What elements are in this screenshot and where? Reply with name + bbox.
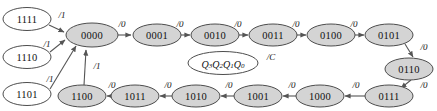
- state-node-1000[interactable]: 1000: [296, 85, 344, 107]
- state-node-1100[interactable]: 1100: [58, 85, 106, 107]
- edge-label-0100-to-0101: /0: [349, 19, 358, 29]
- legend-node: Q3Q2Q1Q0 /C: [188, 52, 276, 75]
- state-label-1010: 1010: [185, 91, 207, 102]
- state-label-0111: 0111: [378, 91, 399, 102]
- edge-label-1101-to-0000: /1: [45, 74, 53, 84]
- state-node-1101[interactable]: 1101: [3, 83, 51, 106]
- diagram-canvas: 1111 1110 1101 0000 0001 0010: [0, 0, 437, 111]
- state-label-1000: 1000: [309, 91, 331, 102]
- state-node-0011[interactable]: 0011: [249, 24, 297, 46]
- state-node-0000[interactable]: 0000: [66, 23, 118, 47]
- edge-label-0000-to-0001: /0: [117, 19, 126, 29]
- edge-label-1010-to-1011: /0: [163, 80, 172, 90]
- edge-label-1011-to-1100: /0: [107, 80, 116, 90]
- edge-label-0010-to-0011: /0: [233, 19, 242, 29]
- state-label-1110: 1110: [16, 52, 37, 63]
- edge-label-0110-to-0111: /0: [419, 80, 428, 90]
- edge-0101-to-0110: [405, 44, 413, 57]
- edge-label-0011-to-0100: /0: [291, 19, 300, 29]
- state-label-0100: 0100: [320, 30, 342, 41]
- state-node-1111[interactable]: 1111: [3, 8, 51, 31]
- legend-state-encoding: Q3Q2Q1Q0: [202, 58, 245, 70]
- edge-label-1000-to-1001: /0: [287, 80, 296, 90]
- edge-label-0001-to-0010: /0: [175, 19, 184, 29]
- state-label-1011: 1011: [124, 91, 145, 102]
- state-label-0010: 0010: [204, 30, 226, 41]
- edge-1110-to-0000: [50, 40, 65, 52]
- legend-output-label: /C: [266, 52, 277, 62]
- edge-label-1001-to-1010: /0: [224, 80, 233, 90]
- state-label-1100: 1100: [71, 91, 92, 102]
- state-node-1010[interactable]: 1010: [172, 85, 220, 107]
- edge-labels-layer: /1 /1 /1 /0 /0 /0 /0 /0 /0 /0 /0 /0 /0 /…: [42, 10, 428, 90]
- edge-1101-to-0000: [50, 46, 76, 89]
- edge-label-1110-to-0000: /1: [42, 39, 50, 49]
- state-transition-diagram: 1111 1110 1101 0000 0001 0010: [0, 0, 437, 111]
- state-label-1101: 1101: [16, 89, 37, 100]
- edge-1111-to-0000: [49, 25, 64, 32]
- edge-1100-to-0000: [84, 50, 86, 85]
- edge-label-0101-to-0110: /0: [419, 42, 428, 52]
- state-node-0001[interactable]: 0001: [133, 24, 181, 46]
- edge-label-1111-to-0000: /1: [57, 10, 65, 20]
- state-label-0000: 0000: [81, 30, 103, 41]
- state-node-1011[interactable]: 1011: [111, 85, 159, 107]
- state-node-0111[interactable]: 0111: [365, 85, 413, 107]
- state-label-0011: 0011: [262, 30, 283, 41]
- state-node-1001[interactable]: 1001: [234, 85, 282, 107]
- state-label-0110: 0110: [398, 64, 419, 75]
- edge-label-0111-to-1000: /0: [351, 80, 360, 90]
- state-label-0101: 0101: [378, 30, 400, 41]
- state-label-0001: 0001: [146, 30, 168, 41]
- state-node-0101[interactable]: 0101: [365, 24, 413, 46]
- state-node-0010[interactable]: 0010: [191, 24, 239, 46]
- state-label-1111: 1111: [17, 14, 38, 25]
- edge-label-1100-to-0000: /1: [92, 61, 100, 71]
- state-label-1001: 1001: [247, 91, 269, 102]
- state-node-0110[interactable]: 0110: [385, 58, 433, 80]
- state-node-0100[interactable]: 0100: [307, 24, 355, 46]
